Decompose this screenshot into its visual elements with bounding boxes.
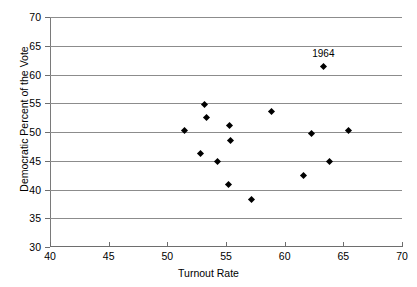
x-axis-tick-label: 65: [323, 251, 363, 262]
gridline: [50, 161, 402, 162]
gridline: [50, 190, 402, 191]
x-axis-tick-label: 70: [382, 251, 417, 262]
y-axis-tick: [45, 17, 50, 18]
x-axis-tick: [50, 242, 51, 247]
x-axis-tick: [226, 242, 227, 247]
x-axis-tick-label: 50: [147, 251, 187, 262]
x-axis-tick-label: 60: [265, 251, 305, 262]
y-axis-tick: [45, 161, 50, 162]
x-axis-tick-label: 40: [30, 251, 70, 262]
gridline: [50, 218, 402, 219]
scatter-chart-figure: 303540455055606570 40455055606570 1964 T…: [0, 0, 417, 287]
data-point-annotation: 1964: [312, 49, 334, 59]
gridline: [50, 46, 402, 47]
x-axis-title: Turnout Rate: [0, 267, 417, 279]
x-axis-tick: [285, 242, 286, 247]
x-axis-tick-label: 55: [206, 251, 246, 262]
y-axis-title: Democratic Percent of the Vote: [18, 9, 30, 229]
y-axis-tick: [45, 75, 50, 76]
x-axis-tick: [343, 242, 344, 247]
y-axis-tick: [45, 190, 50, 191]
y-axis-tick: [45, 103, 50, 104]
x-axis-tick: [167, 242, 168, 247]
y-axis-tick: [45, 46, 50, 47]
x-axis-tick-label: 45: [89, 251, 129, 262]
gridline: [50, 103, 402, 104]
y-axis-tick: [45, 218, 50, 219]
x-axis-tick: [402, 242, 403, 247]
y-axis-tick: [45, 132, 50, 133]
gridline: [50, 17, 402, 18]
y-axis-tick: [45, 247, 50, 248]
gridline: [50, 75, 402, 76]
x-axis-tick: [109, 242, 110, 247]
